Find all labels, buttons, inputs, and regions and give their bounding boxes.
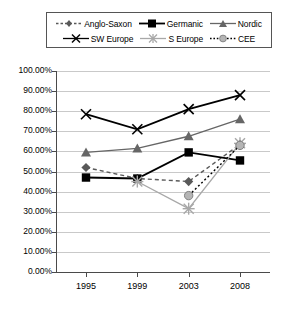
legend-item-sw-europe: SW Europe (63, 33, 134, 44)
series-layer (56, 71, 270, 272)
x-axis-label: 1995 (61, 281, 111, 291)
series-sw-europe (81, 90, 245, 134)
y-axis-tick (52, 272, 57, 273)
legend-marker-square-icon (139, 18, 165, 29)
series-line (86, 152, 240, 178)
legend-item-nordic: Nordic (210, 18, 262, 29)
y-axis-label: 100.00% (0, 66, 52, 75)
x-axis-label: 2008 (215, 281, 265, 291)
line-chart: Anglo-Saxon Germanic Nordic (0, 0, 286, 310)
x-axis-tick (86, 272, 87, 277)
y-axis-label: 40.00% (0, 187, 52, 196)
x-axis-tick (137, 272, 138, 277)
data-point-cross (81, 109, 91, 119)
legend-label: Anglo-Saxon (84, 19, 132, 29)
legend-marker-star-icon (140, 33, 166, 44)
legend-item-cee: CEE (210, 33, 255, 44)
legend-marker-triangle-icon (210, 18, 236, 29)
series-anglo-saxon (81, 140, 244, 186)
data-point-diamond (184, 177, 193, 186)
legend-marker-cross-icon (63, 33, 89, 44)
data-point-triangle (235, 114, 245, 123)
series-germanic (82, 148, 244, 183)
y-axis-label: 0.00% (0, 267, 52, 276)
legend-row: SW Europe S Europe CEE (51, 31, 267, 46)
y-axis-label: 60.00% (0, 146, 52, 155)
data-point-cross (132, 124, 142, 134)
legend-item-s-europe: S Europe (140, 33, 203, 44)
data-point-circle (184, 191, 192, 199)
x-axis-tick (189, 272, 190, 277)
data-point-diamond (81, 163, 90, 172)
legend-row: Anglo-Saxon Germanic Nordic (51, 16, 267, 31)
legend-label: CEE (238, 34, 255, 44)
chart-legend: Anglo-Saxon Germanic Nordic (46, 12, 272, 48)
data-point-circle (236, 141, 244, 149)
data-point-star (183, 203, 195, 215)
y-axis-label: 30.00% (0, 207, 52, 216)
y-axis-label: 70.00% (0, 126, 52, 135)
x-axis-label: 1999 (112, 281, 162, 291)
legend-label: SW Europe (91, 34, 134, 44)
y-axis-label: 90.00% (0, 86, 52, 95)
data-point-square (82, 173, 90, 181)
series-line (86, 95, 240, 129)
y-axis-label: 10.00% (0, 247, 52, 256)
y-axis-label: 80.00% (0, 106, 52, 115)
x-axis-tick (240, 272, 241, 277)
x-axis-label: 2003 (164, 281, 214, 291)
legend-label: Germanic (167, 19, 203, 29)
legend-marker-circle-icon (210, 33, 236, 44)
data-point-square (236, 156, 244, 164)
legend-label: Nordic (238, 19, 262, 29)
y-axis-label: 20.00% (0, 227, 52, 236)
data-point-square (184, 148, 192, 156)
data-point-star (131, 176, 143, 188)
y-axis-label: 50.00% (0, 167, 52, 176)
legend-marker-diamond-icon (56, 18, 82, 29)
series-line (86, 119, 240, 152)
x-axis-line (56, 272, 270, 273)
legend-item-anglo-saxon: Anglo-Saxon (56, 18, 132, 29)
legend-item-germanic: Germanic (139, 18, 203, 29)
legend-label: S Europe (168, 34, 203, 44)
